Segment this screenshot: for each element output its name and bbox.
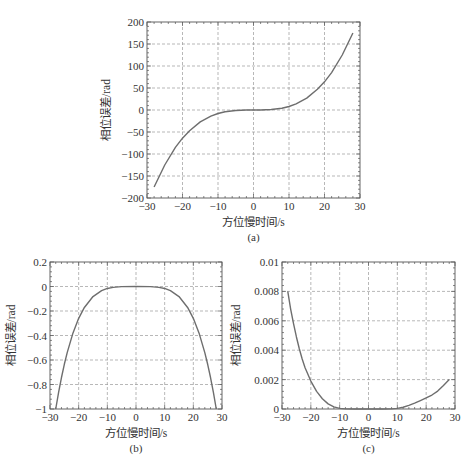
- y-tick-label: 0: [42, 281, 48, 293]
- x-tick-label: −20: [302, 411, 320, 423]
- x-tick-label: −10: [331, 411, 349, 423]
- x-tick-label: 30: [217, 411, 229, 423]
- y-tick-label: 0: [139, 104, 145, 116]
- y-tick-label: −0.8: [27, 379, 47, 391]
- y-tick-label: −0.2: [27, 305, 47, 317]
- y-tick-label: 0.004: [254, 344, 279, 356]
- x-axis-label: 方位慢时间/s: [105, 426, 168, 439]
- x-tick-label: 0: [251, 200, 257, 212]
- x-tick-label: 30: [450, 411, 462, 423]
- figure-caption: (c): [362, 442, 375, 455]
- y-tick-label: 0.008: [254, 285, 279, 297]
- grid: [50, 262, 222, 409]
- x-tick-label: −10: [209, 200, 227, 212]
- x-tick-label: 20: [319, 200, 331, 212]
- y-tick-label: 0.01: [260, 256, 279, 268]
- y-tick-label: 0.2: [33, 256, 47, 268]
- x-tick-label: 30: [355, 200, 367, 212]
- x-tick-label: 10: [284, 200, 296, 212]
- y-tick-label: 150: [128, 38, 145, 50]
- x-tick-label: −20: [70, 411, 88, 423]
- grid: [282, 262, 455, 409]
- y-axis-label: 相位误差/rad: [229, 304, 242, 366]
- y-axis-label: 相位误差/rad: [99, 79, 112, 141]
- y-tick-label: −50: [127, 126, 145, 138]
- x-tick-label: −20: [174, 200, 192, 212]
- y-tick-label: −0.4: [27, 330, 47, 342]
- x-tick-label: 0: [366, 411, 372, 423]
- x-tick-label: 10: [159, 411, 171, 423]
- figure-canvas: −30−20−100102030−200−150−100−50050100150…: [0, 0, 472, 465]
- x-axis-label: 方位慢时间/s: [222, 215, 285, 228]
- plot-c: −30−20−10010203000.0020.0040.0060.0080.0…: [229, 256, 461, 455]
- x-tick-label: 0: [133, 411, 139, 423]
- y-tick-label: 0.002: [254, 374, 279, 386]
- y-tick-label: −100: [121, 148, 144, 160]
- figure-caption: (b): [130, 442, 143, 455]
- y-tick-label: −0.6: [27, 354, 47, 366]
- y-tick-label: 0.006: [254, 315, 279, 327]
- y-tick-label: 50: [133, 82, 145, 94]
- y-tick-label: −1: [35, 403, 47, 415]
- y-tick-label: 0: [274, 403, 280, 415]
- y-tick-label: −150: [121, 170, 144, 182]
- y-tick-label: 200: [128, 16, 145, 28]
- figure-caption: (a): [247, 231, 260, 244]
- x-axis-label: 方位慢时间/s: [337, 426, 400, 439]
- plot-b: −30−20−100102030−1−0.8−0.6−0.4−0.200.2方位…: [4, 256, 228, 455]
- x-tick-label: 20: [188, 411, 200, 423]
- x-tick-label: 10: [392, 411, 404, 423]
- x-tick-label: 20: [421, 411, 433, 423]
- y-tick-label: 100: [128, 60, 145, 72]
- y-tick-label: −200: [121, 192, 144, 204]
- x-tick-label: −10: [99, 411, 117, 423]
- plot-a: −30−20−100102030−200−150−100−50050100150…: [99, 16, 366, 244]
- y-axis-label: 相位误差/rad: [4, 304, 17, 366]
